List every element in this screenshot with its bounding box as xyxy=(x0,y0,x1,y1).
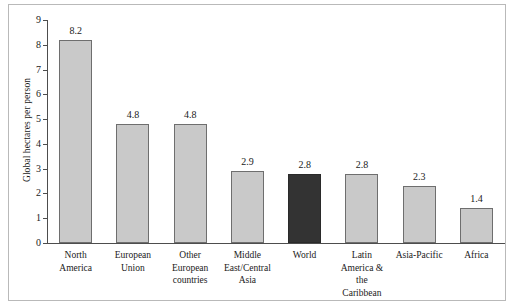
y-axis-tick-label: 6 xyxy=(36,87,41,100)
y-axis-tick-mark xyxy=(43,94,48,95)
y-axis-tick-mark xyxy=(43,119,48,120)
y-axis-tick-label: 3 xyxy=(36,162,41,175)
bar[interactable] xyxy=(403,186,436,243)
bar[interactable] xyxy=(116,124,149,243)
y-axis-tick-label: 1 xyxy=(36,211,41,224)
bar-value-label: 4.8 xyxy=(103,109,163,121)
y-axis-tick-mark xyxy=(43,70,48,71)
bar-value-label: 2.8 xyxy=(332,159,392,171)
y-axis-tick-mark xyxy=(43,144,48,145)
y-axis-tick-label: 8 xyxy=(36,38,41,51)
x-axis-category-line: America & xyxy=(328,262,396,275)
bar-value-label: 2.3 xyxy=(389,171,449,183)
y-axis-tick-label: 7 xyxy=(36,63,41,76)
y-axis-tick-label: 9 xyxy=(36,13,41,26)
y-axis-line xyxy=(47,20,48,243)
y-axis-tick-mark xyxy=(43,20,48,21)
x-axis-line xyxy=(47,243,505,244)
bar-chart-figure: Global hectares per person 0123456789 8.… xyxy=(0,0,517,305)
y-axis-tick-mark xyxy=(43,45,48,46)
x-axis-category-line: Asia xyxy=(213,274,281,287)
y-axis-tick-label: 5 xyxy=(36,112,41,125)
bar[interactable] xyxy=(288,174,321,243)
plot-area: 0123456789 8.24.84.82.92.82.82.31.4 xyxy=(47,20,505,243)
y-axis-tick-mark xyxy=(43,218,48,219)
bar-value-label: 4.8 xyxy=(160,109,220,121)
bar[interactable] xyxy=(231,171,264,243)
bar-value-label: 2.8 xyxy=(275,159,335,171)
y-axis-tick-mark xyxy=(43,169,48,170)
y-axis-title: Global hectares per person xyxy=(22,35,32,225)
x-axis-category-line: East/Central xyxy=(213,262,281,275)
bar[interactable] xyxy=(59,40,92,243)
bar[interactable] xyxy=(460,208,493,243)
bar-value-label: 2.9 xyxy=(217,156,277,168)
y-axis-tick-mark xyxy=(43,193,48,194)
x-axis-category-label: Africa xyxy=(442,249,510,262)
x-axis-category-line: the xyxy=(328,274,396,287)
y-axis-tick-label: 4 xyxy=(36,137,41,150)
x-axis-category-line: Africa xyxy=(442,249,510,262)
bar[interactable] xyxy=(345,174,378,243)
bar-value-label: 8.2 xyxy=(46,25,106,37)
bar-value-label: 1.4 xyxy=(446,193,506,205)
y-axis-tick-mark xyxy=(43,243,48,244)
y-axis-tick-label: 2 xyxy=(36,186,41,199)
bar[interactable] xyxy=(174,124,207,243)
y-axis-tick-label: 0 xyxy=(36,236,41,249)
x-axis-category-line: Caribbean xyxy=(328,287,396,300)
